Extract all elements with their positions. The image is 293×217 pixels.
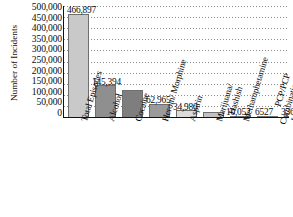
y-tick-label: 350,000 [32,34,62,43]
y-axis-tick-labels: 500,000 450,000 400,000 350,000 300,000 … [14,0,62,120]
y-tick-label: 200,000 [32,66,62,75]
bar-chart: Number of Incidents 500,000 450,000 400,… [0,0,293,217]
y-tick-label: 100,000 [32,87,62,96]
y-tick-label: 450,000 [32,13,62,22]
y-tick-label: 250,000 [32,55,62,64]
x-axis-line [63,117,289,118]
gridline [64,6,289,7]
y-tick-label: 0 [57,108,62,117]
y-tick-label: 500,000 [32,2,62,11]
y-axis-line [63,6,64,118]
y-tick-label: 400,000 [32,23,62,32]
gridline [64,50,289,51]
gridline [64,17,289,18]
gridline [64,39,289,40]
y-tick-label: 50,000 [37,97,62,106]
gridline [64,28,289,29]
x-axis-category-labels: Total Episodes Alcohol Cocaine Heroin/ M… [63,120,289,217]
y-tick-label: 150,000 [32,76,62,85]
bar-value-label: 466,897 [67,5,96,15]
y-tick-label: 300,000 [32,44,62,53]
